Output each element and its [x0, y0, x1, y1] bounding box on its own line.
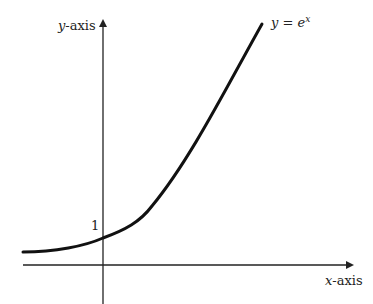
- x-axis-label: x-axis: [325, 273, 363, 288]
- exponential-graph: y-axis y = ex 1 x-axis: [0, 0, 373, 304]
- y-intercept-label: 1: [91, 218, 99, 233]
- curve-label: y = ex: [270, 14, 310, 30]
- exponential-curve: [23, 24, 262, 252]
- y-axis-label: y-axis: [57, 18, 96, 33]
